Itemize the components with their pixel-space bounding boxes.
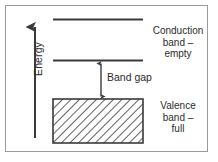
valence-band-caption-line-1: Valence — [146, 100, 210, 112]
valence-band-caption: Valence band – full — [146, 100, 210, 135]
conduction-band-caption-line-3: empty — [146, 48, 210, 60]
energy-axis-label: Energy — [32, 29, 46, 89]
conduction-band-caption-line-1: Conduction — [146, 25, 210, 37]
valence-band-block — [53, 99, 143, 143]
band-gap-label: Band gap — [107, 71, 152, 83]
valence-band-caption-line-3: full — [146, 123, 210, 135]
band-gap-diagram: Energy Band gap Conduction band – empty … — [0, 0, 218, 162]
conduction-band-caption: Conduction band – empty — [146, 25, 210, 60]
conduction-band-caption-line-2: band – — [146, 37, 210, 49]
valence-band-caption-line-2: band – — [146, 112, 210, 124]
